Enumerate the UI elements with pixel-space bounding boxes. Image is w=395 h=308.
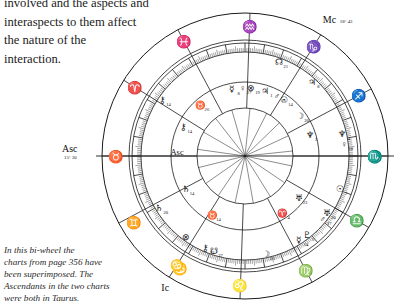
outer-planet-chiron: ⚷ — [202, 243, 209, 253]
outer-planet-saturn-degree: 20 — [163, 210, 168, 215]
inner-planet-part-fortune-degree: 19 — [255, 90, 260, 95]
aspect-lines — [96, 108, 394, 203]
inner-planet-saturn: ♄ — [182, 184, 190, 194]
sign-glyph-leo: ♌ — [232, 278, 248, 293]
outer-planet-north-node-degree: 21 — [283, 64, 288, 69]
inner-planet-neptune: ♆ — [306, 130, 314, 140]
angle-label-mc: Mc — [323, 14, 337, 25]
bi-wheel-chart: ♒♓♈♉♊♋♌♍♎♏♐♑ ☊21♃8♆4♀10☉7♅20♂17♇5☿14☽26☋… — [95, 4, 395, 308]
outer-planet-neptune-degree: 4 — [348, 136, 351, 141]
angle-sign-capricorn: ♑ — [306, 41, 320, 54]
sign-glyph-virgo: ♍ — [298, 263, 314, 278]
angle-sign-taurus: ♉ — [109, 150, 123, 163]
outer-planet-south-node-degree: 27 — [218, 253, 223, 258]
sign-glyph-libra: ♎ — [349, 213, 365, 228]
outer-planet-jupiter-degree: 8 — [317, 84, 320, 89]
sign-glyph-pisces: ♓ — [176, 34, 192, 49]
inner-planet-saturn-degree: 14 — [190, 191, 195, 196]
sign-glyph-gemini: ♊ — [126, 215, 142, 230]
inner-planet-aries-point-degree: 4 — [287, 215, 290, 220]
outer-planet-moon: ☽ — [262, 249, 270, 259]
angle-degree-mc: 18° 43 — [340, 19, 353, 24]
inner-planet-chiron-degree: 14 — [188, 129, 193, 134]
outer-planet-jupiter: ♃ — [308, 77, 316, 87]
angle-label-asc: Asc — [62, 143, 78, 154]
outer-planet-north-node: ☊ — [275, 57, 283, 67]
inner-planet-chiron: ⚷ — [180, 122, 187, 132]
inner-planet-venus: ♀ — [239, 83, 245, 93]
inner-planet-mercury: ☿ — [229, 84, 235, 94]
inner-planet-taurus-pt-degree: 14 — [216, 217, 221, 222]
outer-planet-moon-degree: 26 — [270, 256, 275, 261]
inner-planet-moon-degree: 20 — [304, 118, 309, 123]
outer-planet-sun: ☉ — [336, 184, 344, 194]
outer-planet-chiron-degree: 21 — [210, 250, 215, 255]
outer-planet-mercury: ☿ — [296, 235, 302, 245]
outer-planet-venus: ♀ — [341, 139, 347, 149]
inner-planet-aries-point: ♈ — [277, 208, 288, 218]
inner-planet-uranus: ♅ — [295, 193, 303, 203]
outer-planet-pluto: ♇ — [303, 230, 311, 240]
sign-glyph-aquarius: ♒ — [242, 19, 258, 34]
angle-degree-asc: 15° 20 — [64, 155, 77, 160]
outer-planet-part-fortune: ⊗ — [182, 232, 190, 242]
inner-planet-part-fortune: ⊗ — [247, 83, 255, 93]
sign-glyph-aries: ♈ — [127, 80, 143, 95]
outer-planet-saturn: ♄ — [155, 203, 163, 213]
sign-glyph-sagittarius: ♐ — [351, 88, 367, 103]
inner-planet-uranus-degree: 23 — [303, 200, 308, 205]
inner-planet-jupiter: ♃ — [261, 86, 269, 96]
angle-sign-scorpio: ♏ — [367, 150, 381, 163]
inner-planet-taurus-node-degree: 26 — [205, 107, 210, 112]
outer-planet-mars: ♂ — [320, 214, 326, 224]
angle-label-ic: Ic — [161, 282, 169, 293]
outer-planet-chiron-2: ⚷ — [159, 95, 166, 105]
outer-planet-venus-degree: 10 — [348, 146, 353, 151]
inner-planet-sun: ☉ — [280, 95, 288, 105]
inner-planet-moon: ☽ — [296, 111, 304, 121]
outer-planet-neptune: ♆ — [338, 129, 346, 139]
inner-planet-asc-marker: Asc — [170, 147, 183, 157]
outer-planet-chiron-2-degree: 14 — [166, 102, 171, 107]
outer-planet-uranus-degree: 20 — [331, 215, 336, 220]
outer-planet-mercury-degree: 14 — [304, 242, 309, 247]
inner-planet-sun-degree: 14 — [288, 102, 293, 107]
outer-planet-mars-degree: 17 — [327, 221, 332, 226]
angle-sign-cancer: ♋ — [170, 259, 184, 272]
